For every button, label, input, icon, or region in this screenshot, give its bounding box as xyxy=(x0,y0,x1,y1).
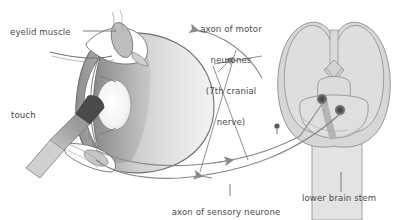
motor-nucleus xyxy=(317,94,327,104)
label-axon-sensory-neurone: axon of sensory neurone (5th cranial ner… xyxy=(162,186,290,220)
sensory-arrowhead xyxy=(214,160,232,163)
sensory-nucleus xyxy=(335,105,345,115)
label-motor-line-3: (7th cranial xyxy=(189,86,273,96)
label-sensory-line-1: axon of sensory neurone xyxy=(162,207,290,217)
synapse-bouton xyxy=(274,123,279,128)
label-motor-line-4: nerve) xyxy=(189,117,273,127)
label-motor-line-2: neurones xyxy=(189,55,273,65)
brain-stem-group xyxy=(278,22,391,220)
label-touch: touch xyxy=(11,110,36,120)
label-lower-brain-stem: lower brain stem xyxy=(302,193,376,203)
label-eyelid-muscle: eyelid muscle xyxy=(10,27,71,37)
label-axon-motor-neurones: axon of motor neurones (7th cranial nerv… xyxy=(189,3,273,138)
label-motor-line-1: axon of motor xyxy=(189,24,273,34)
